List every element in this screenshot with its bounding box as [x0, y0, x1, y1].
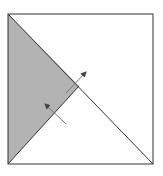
- diagram-canvas: [0, 0, 163, 176]
- shaded-triangle: [8, 14, 79, 164]
